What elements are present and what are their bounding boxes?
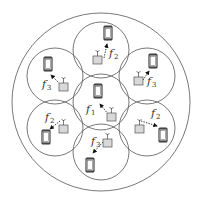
link-arrow	[100, 104, 108, 114]
cells-layer	[27, 22, 175, 180]
frequency-label: f1	[85, 103, 96, 117]
frequency-label: f2	[108, 47, 119, 61]
frequency-label: f3	[90, 135, 101, 149]
mobile-phone-icon	[159, 128, 167, 142]
mobile-phone-icon	[104, 26, 112, 40]
base-station-antenna-icon	[59, 77, 68, 91]
base-station-antenna-icon	[103, 133, 112, 147]
cellular-network-diagram: f1f2f3f3f2f2f3	[0, 0, 201, 206]
base-station-antenna-icon	[135, 119, 144, 133]
frequency-label: f3	[41, 78, 52, 92]
mobile-phone-icon	[94, 84, 102, 98]
mobile-phone-icon	[42, 130, 50, 144]
mobile-phone-icon	[44, 57, 52, 71]
cell-center	[73, 74, 129, 130]
cell-content-upper-left: f3	[41, 57, 68, 92]
base-station-antenna-icon	[93, 50, 102, 64]
base-station-antenna-icon	[134, 71, 143, 85]
cell-content-top: f2	[93, 26, 119, 64]
mobile-phone-icon	[149, 54, 157, 68]
cell-content-lower-right: f2	[135, 107, 167, 142]
base-station-antenna-icon	[59, 119, 68, 133]
frequency-label: f2	[150, 107, 161, 121]
cell-content-upper-right: f3	[134, 54, 157, 89]
mobile-phone-icon	[86, 158, 94, 172]
cell-content-center: f1	[85, 84, 116, 121]
cell-content-bottom: f3	[86, 133, 112, 172]
cell-lower-left	[27, 100, 83, 156]
coverage-area-outer-circle	[12, 13, 190, 191]
cell-content-lower-left: f2	[42, 111, 68, 144]
base-station-antenna-icon	[107, 107, 116, 121]
cell-bottom	[73, 124, 129, 180]
frequency-label: f3	[146, 75, 157, 89]
cell-upper-left	[27, 48, 83, 104]
cell-top	[73, 22, 129, 78]
frequency-label: f2	[44, 111, 55, 125]
link-arrow	[104, 44, 107, 58]
